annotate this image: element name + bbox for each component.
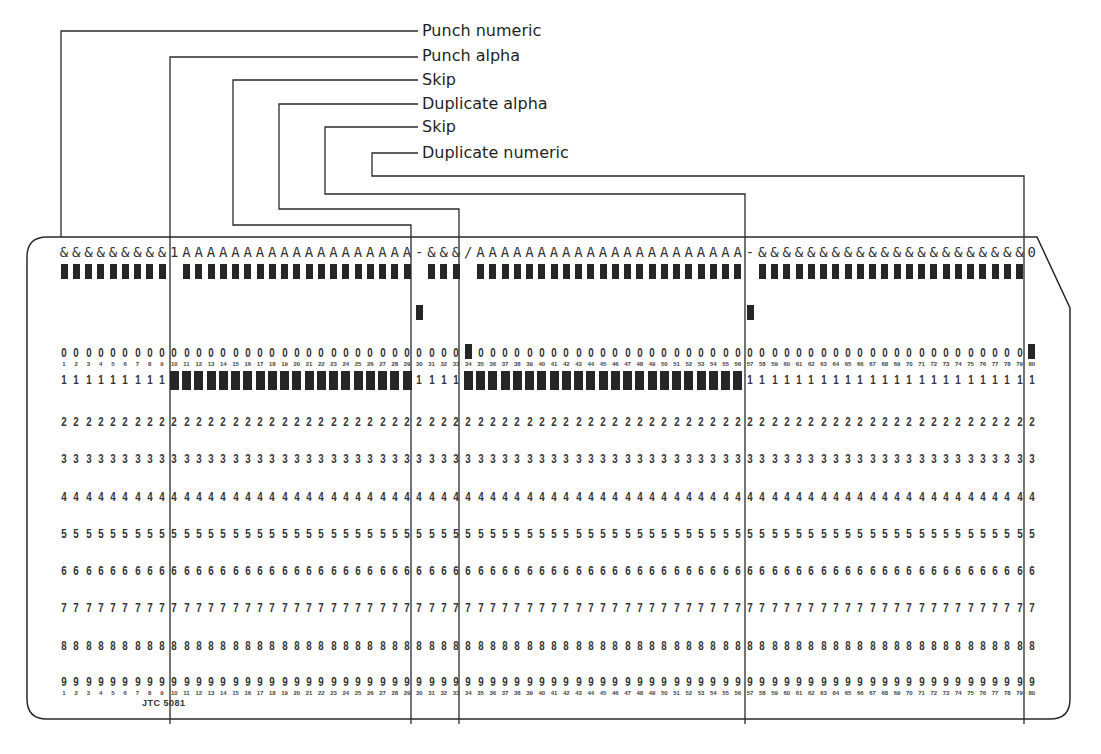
row-digit: 4 <box>1003 489 1012 504</box>
header-char: & <box>989 244 1001 260</box>
row-digit: 0 <box>292 345 301 360</box>
row-digit: 7 <box>280 600 289 615</box>
header-char: & <box>756 244 768 260</box>
punch-hole <box>182 371 191 390</box>
row-digit: 8 <box>746 638 755 653</box>
row-digit: 7 <box>562 600 571 615</box>
row-digit: 7 <box>856 600 865 615</box>
row-digit: 9 <box>194 674 203 689</box>
row-digit: 6 <box>942 563 951 578</box>
column-number: 28 <box>389 690 401 696</box>
row-digit: 0 <box>880 345 889 360</box>
row-digit: 5 <box>170 526 179 541</box>
row-digit: 0 <box>831 345 840 360</box>
row-digit: 7 <box>537 600 546 615</box>
row-digit: 7 <box>893 600 902 615</box>
row-digit: 3 <box>145 451 154 466</box>
row-digit: 2 <box>770 414 779 429</box>
row-digit: 4 <box>194 489 203 504</box>
row-digit: 8 <box>562 638 571 653</box>
row-digit: 8 <box>844 638 853 653</box>
row-digit: 9 <box>795 674 804 689</box>
row-digit: 4 <box>341 489 350 504</box>
row-digit: 5 <box>1003 526 1012 541</box>
row-digit: 2 <box>452 414 461 429</box>
row-digit: 5 <box>231 526 240 541</box>
row-digit: 7 <box>72 600 81 615</box>
column-number: 7 <box>132 690 144 696</box>
punch-hole <box>661 264 668 279</box>
label-duplicate-numeric: Duplicate numeric <box>422 144 569 162</box>
column-number: 49 <box>646 361 658 367</box>
row-digit: 2 <box>145 414 154 429</box>
row-digit: 5 <box>623 526 632 541</box>
row-digit: 3 <box>562 451 571 466</box>
row-digit: 4 <box>574 489 583 504</box>
row-digit: 4 <box>868 489 877 504</box>
row-digit: 6 <box>831 563 840 578</box>
label-punch-alpha: Punch alpha <box>422 47 520 65</box>
punch-hole <box>575 264 582 279</box>
row-digit: 3 <box>782 451 791 466</box>
row-digit: 0 <box>807 345 816 360</box>
row-digit: 2 <box>635 414 644 429</box>
column-number: 34 <box>462 361 474 367</box>
punch-hole <box>600 264 607 279</box>
leader-punch-numeric <box>61 31 418 237</box>
row-digit: 9 <box>464 674 473 689</box>
row-digit: 3 <box>942 451 951 466</box>
column-number: 21 <box>303 361 315 367</box>
column-number: 61 <box>793 361 805 367</box>
row-digit: 7 <box>721 600 730 615</box>
row-digit: 8 <box>182 638 191 653</box>
row-digit: 5 <box>648 526 657 541</box>
row-digit: 5 <box>586 526 595 541</box>
punch-hole <box>318 264 325 279</box>
header-char: - <box>744 244 756 260</box>
row-digit: 7 <box>464 600 473 615</box>
row-digit: 4 <box>660 489 669 504</box>
row-digit: 0 <box>562 345 571 360</box>
row-digit: 8 <box>831 638 840 653</box>
row-digit: 5 <box>280 526 289 541</box>
row-digit: 9 <box>268 674 277 689</box>
row-digit: 4 <box>893 489 902 504</box>
row-digit: 8 <box>170 638 179 653</box>
row-digit: 7 <box>611 600 620 615</box>
punch-hole <box>624 264 631 279</box>
row-digit: 7 <box>390 600 399 615</box>
punch-hole <box>342 264 349 279</box>
row-digit: 8 <box>611 638 620 653</box>
column-number: 12 <box>193 361 205 367</box>
row-digit: 2 <box>354 414 363 429</box>
column-number: 26 <box>364 690 376 696</box>
row-digit: 3 <box>415 451 424 466</box>
row-digit: 7 <box>427 600 436 615</box>
row-digit: 3 <box>305 451 314 466</box>
column-number: 43 <box>573 690 585 696</box>
punch-hole <box>992 264 999 279</box>
row-digit: 6 <box>476 563 485 578</box>
column-number: 75 <box>965 361 977 367</box>
row-digit: 1 <box>856 372 865 387</box>
row-digit: 4 <box>709 489 718 504</box>
row-digit: 9 <box>525 674 534 689</box>
row-digit: 5 <box>1027 526 1036 541</box>
punch-hole <box>747 305 754 320</box>
row-digit: 2 <box>733 414 742 429</box>
row-digit: 9 <box>746 674 755 689</box>
header-char: & <box>132 244 144 260</box>
row-digit: 3 <box>525 451 534 466</box>
row-digit: 1 <box>758 372 767 387</box>
row-digit: 5 <box>697 526 706 541</box>
column-number: 57 <box>744 690 756 696</box>
row-digit: 5 <box>562 526 571 541</box>
row-digit: 8 <box>978 638 987 653</box>
column-number: 32 <box>438 690 450 696</box>
row-digit: 3 <box>746 451 755 466</box>
row-digit: 6 <box>109 563 118 578</box>
row-digit: 5 <box>145 526 154 541</box>
row-digit: 7 <box>341 600 350 615</box>
row-digit: 3 <box>427 451 436 466</box>
row-digit: 9 <box>917 674 926 689</box>
